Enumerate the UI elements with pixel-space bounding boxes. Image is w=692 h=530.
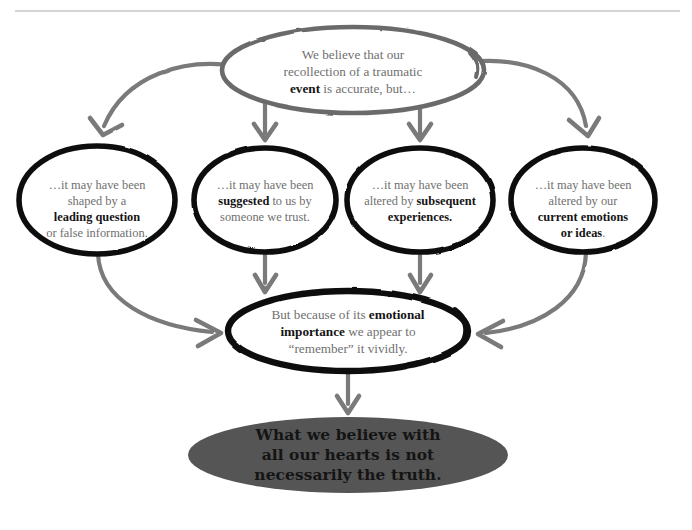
arrow-subsequent-to-synthesis [410,254,431,292]
arrow-premise-to-suggested [254,101,276,140]
branch-subsequent-oval [347,148,493,252]
branch-suggested-oval [194,148,336,252]
arrow-premise-to-leading-question [90,64,236,135]
arrow-leading-question-to-synthesis [98,254,221,346]
synthesis-oval [228,291,468,371]
branch-ovals [19,146,655,254]
arrow-synthesis-to-conclusion [337,372,359,413]
arrow-current-emotions-to-synthesis [478,252,586,347]
branch-leading-question-oval [19,146,175,254]
diagram-graphics-layer [0,0,692,530]
arrow-premise-to-current-emotions [470,61,599,136]
premise-oval [222,27,484,113]
branch-current-emotions-oval [511,148,655,252]
diagram-canvas: We believe that ourrecollection of a tra… [0,0,692,530]
conclusion-ellipse [188,417,508,493]
arrow-suggested-to-synthesis [255,254,276,292]
